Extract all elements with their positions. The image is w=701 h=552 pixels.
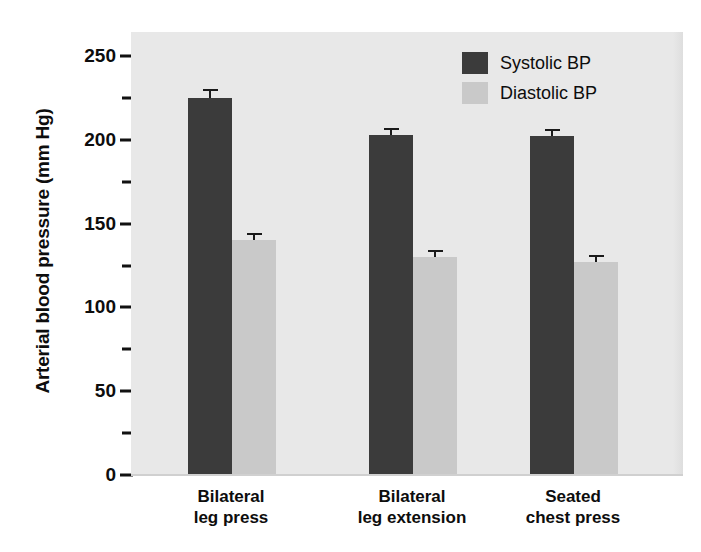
bar-systolic-group-2 xyxy=(369,135,413,475)
legend-label-diastolic: Diastolic BP xyxy=(500,83,597,104)
error-bar-systolic-group-3 xyxy=(530,129,574,136)
y-tick-label-50: 50 xyxy=(58,380,116,402)
y-tick-label-200: 200 xyxy=(58,129,116,151)
error-bar-diastolic-group-3 xyxy=(574,255,618,262)
legend-item-diastolic[interactable]: Diastolic BP xyxy=(462,78,597,108)
bar-diastolic-group-1 xyxy=(232,240,276,475)
error-bar-systolic-group-2 xyxy=(369,128,413,135)
y-axis-title: Arterial blood pressure (mm Hg) xyxy=(32,36,54,466)
legend-label-systolic: Systolic BP xyxy=(500,53,591,74)
y-tick-label-250: 250 xyxy=(58,45,116,67)
error-bar-cap xyxy=(589,255,604,257)
x-category-label-line1: Bilateral xyxy=(141,487,321,508)
legend-item-systolic[interactable]: Systolic BP xyxy=(462,48,597,78)
y-tick-label-150: 150 xyxy=(58,213,116,235)
legend-swatch-diastolic xyxy=(462,82,488,104)
bar-chart-figure: Arterial blood pressure (mm Hg) 250 200 … xyxy=(0,0,701,552)
x-axis-baseline xyxy=(131,474,683,476)
error-bar-cap xyxy=(545,129,560,131)
error-bar-diastolic-group-2 xyxy=(413,250,457,257)
x-category-label-line1: Bilateral xyxy=(322,487,502,508)
error-bar-cap xyxy=(203,89,218,91)
legend: Systolic BP Diastolic BP xyxy=(462,48,597,108)
plot-area xyxy=(131,32,683,475)
error-bar-cap xyxy=(384,128,399,130)
x-category-label-line2: chest press xyxy=(483,508,663,529)
legend-swatch-systolic xyxy=(462,52,488,74)
y-axis-tick-labels: 250 200 150 100 50 0 xyxy=(58,0,116,552)
x-category-label-line2: leg extension xyxy=(322,508,502,529)
x-category-label-line2: leg press xyxy=(141,508,321,529)
bar-systolic-group-1 xyxy=(188,98,232,475)
y-tick-label-100: 100 xyxy=(58,296,116,318)
y-tick-label-0: 0 xyxy=(58,464,116,486)
bar-diastolic-group-2 xyxy=(413,257,457,475)
error-bar-systolic-group-1 xyxy=(188,89,232,98)
x-category-label-seated-chest-press: Seated chest press xyxy=(483,487,663,528)
x-category-label-line1: Seated xyxy=(483,487,663,508)
error-bar-cap xyxy=(247,233,262,235)
error-bar-cap xyxy=(428,250,443,252)
bar-systolic-group-3 xyxy=(530,136,574,475)
error-bar-diastolic-group-1 xyxy=(232,233,276,240)
x-category-label-bilateral-leg-press: Bilateral leg press xyxy=(141,487,321,528)
x-category-label-bilateral-leg-extension: Bilateral leg extension xyxy=(322,487,502,528)
bar-diastolic-group-3 xyxy=(574,262,618,475)
